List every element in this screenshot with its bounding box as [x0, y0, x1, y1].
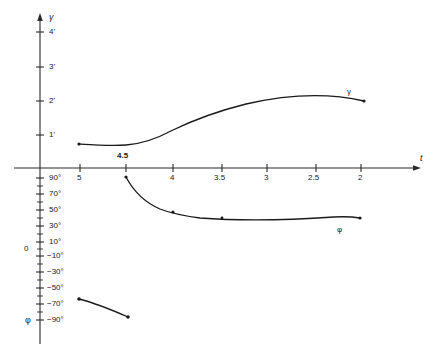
y-bottom-tick-label-neg50: −50°	[47, 284, 64, 292]
y-bottom-tick-label-90: 90°	[49, 174, 61, 182]
x-tick-label-2p5: 2.5	[308, 174, 319, 182]
x-axis-name: t	[420, 154, 423, 163]
y-bottom-tick-label-70: 70°	[49, 190, 61, 198]
y-bottom-tick-label-neg70: −70°	[47, 300, 64, 308]
phi-branch-curve	[77, 297, 130, 319]
x-tick-label-2: 2	[358, 174, 362, 182]
gamma-curve	[77, 96, 365, 146]
phi-zero-label: 0	[24, 245, 28, 253]
y-bottom-tick-label-10: 10°	[49, 238, 61, 246]
gamma-curve-label: γ	[347, 88, 351, 96]
y-bottom-tick-label-neg90: −90°	[47, 316, 64, 324]
y-axis-bottom-name: φ	[25, 316, 31, 325]
phi-curve-label: φ	[337, 226, 342, 234]
y-bottom-tick-label-neg30: −30°	[47, 268, 64, 276]
x-tick-label-5: 5	[77, 174, 81, 182]
y-top-tick-label-3: 3'	[49, 63, 55, 71]
y-axis-top-name: γ	[49, 13, 54, 22]
y-top-tick-label-2: 2'	[49, 97, 55, 105]
y-top-tick-label-1: 1'	[49, 131, 55, 139]
x-tick-label-3: 3	[264, 174, 268, 182]
y-bottom-tick-label-neg10: −10°	[47, 252, 64, 260]
y-top-tick-label-4: 4'	[49, 28, 55, 36]
x-tick-label-4: 4	[170, 174, 174, 182]
y-bottom-tick-label-50: 50°	[49, 206, 61, 214]
phi-curve	[124, 175, 361, 219]
horizontal-axis	[14, 165, 421, 171]
y-bottom-tick-label-30: 30°	[49, 222, 61, 230]
x-tick-label-3p5: 3.5	[214, 174, 225, 182]
x-tick-label-4p5: 4.5	[117, 152, 128, 160]
chart-figure: γ 4' 3' 2' 1' 90° 70° 50° 30° 10° −10° −…	[0, 0, 438, 356]
